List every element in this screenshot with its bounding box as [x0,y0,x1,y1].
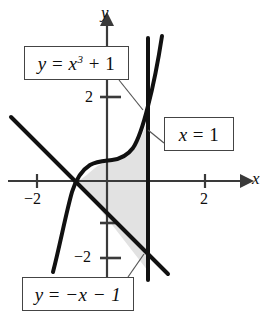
label-box-line-equation: y = −x − 1 [22,277,134,311]
leader-line [128,254,144,277]
label-vertical-text: x = 1 [179,125,220,144]
y-axis-label: y [101,4,109,21]
graph-figure: y = x3 + 1 x = 1 y = −x − 1 −2 2 2 −2 x … [0,0,280,323]
leader-vertical [148,130,164,143]
y-tick-label-pos2: 2 [85,89,93,105]
leader-cubic [119,80,143,110]
y-tick-label-neg2: −2 [74,249,91,265]
x-tick-label-pos2: 2 [200,191,208,207]
label-cubic-text: y = x3 + 1 [38,54,115,73]
x-axis-label: x [252,170,260,187]
x-tick-label-neg2: −2 [24,191,41,207]
label-line-text: y = −x − 1 [35,285,122,304]
label-box-cubic-equation: y = x3 + 1 [24,46,129,80]
label-box-vertical-equation: x = 1 [164,117,234,151]
